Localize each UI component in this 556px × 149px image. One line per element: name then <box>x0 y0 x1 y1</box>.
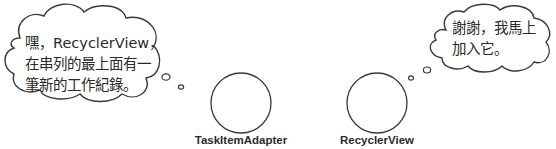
task-item-adapter-label: TaskItemAdapter <box>181 134 301 146</box>
left-bubble-text: 嘿，RecyclerView， 在串列的最上面有一 筆新的工作紀錄。 <box>25 33 163 96</box>
right-bubble-line-2: 加入它。 <box>452 39 536 60</box>
recycler-view-label: RecyclerView <box>327 134 427 146</box>
thought-dot-2 <box>178 85 183 89</box>
thought-dot-4 <box>409 76 414 80</box>
thought-dot-3 <box>423 67 430 73</box>
left-bubble-line-3: 筆新的工作紀錄。 <box>25 75 163 96</box>
right-bubble-text: 謝謝，我馬上 加入它。 <box>452 18 536 60</box>
left-bubble-line-2: 在串列的最上面有一 <box>25 54 163 75</box>
recycler-view-circle <box>347 73 407 133</box>
task-item-adapter-circle <box>211 73 271 133</box>
right-bubble-line-1: 謝謝，我馬上 <box>452 18 536 39</box>
left-bubble-line-1: 嘿，RecyclerView， <box>25 33 163 54</box>
